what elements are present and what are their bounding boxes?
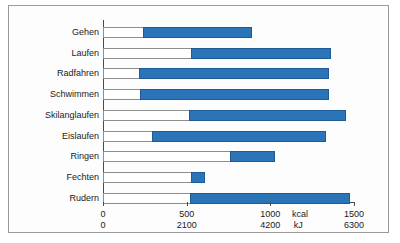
category-axis-labels: GehenLaufenRadfahrenSchwimmenSkilanglauf… [9,20,99,202]
bar-row [103,193,354,204]
plot-area [103,20,354,202]
bar-row [103,68,354,79]
bar-fill [189,110,346,121]
figure-frame: GehenLaufenRadfahrenSchwimmenSkilanglauf… [8,5,389,233]
kj-tick-label: 4200 [260,220,280,231]
kj-unit-label: kJ [294,220,303,231]
bar-fill [230,151,275,162]
bar-row [103,151,354,162]
kj-tick-label: 0 [100,220,105,231]
bar-fill [140,89,329,100]
tick-mark [103,202,104,206]
category-label-skilanglaufen: Skilanglaufen [11,110,99,121]
category-label-schwimmen: Schwimmen [11,89,99,100]
bar-fill [191,48,331,59]
bar-fill [139,68,329,79]
category-label-laufen: Laufen [11,48,99,59]
tick-mark [270,202,271,206]
bar-row [103,48,354,59]
kj-tick-label: 6300 [344,220,364,231]
bar-row [103,110,354,121]
bar-row [103,172,354,183]
category-label-gehen: Gehen [11,27,99,38]
bar-fill [191,172,205,183]
bar-fill [152,131,326,142]
category-label-eislaufen: Eislaufen [11,131,99,142]
bar-row [103,131,354,142]
bar-track [103,172,205,183]
category-label-fechten: Fechten [11,172,99,183]
kcal-unit-label: kcal [292,209,308,220]
kcal-tick-label: 1000 [260,209,280,220]
kj-tick-label: 2100 [177,220,197,231]
bar-row [103,89,354,100]
tick-mark [187,202,188,206]
tick-mark [354,202,355,206]
bar-fill [143,27,252,38]
kcal-tick-label: 500 [179,209,194,220]
bar-row [103,27,354,38]
category-label-rudern: Rudern [11,193,99,204]
kcal-tick-label: 1500 [344,209,364,220]
category-label-ringen: Ringen [11,151,99,162]
kcal-tick-label: 0 [100,209,105,220]
category-label-radfahren: Radfahren [11,68,99,79]
